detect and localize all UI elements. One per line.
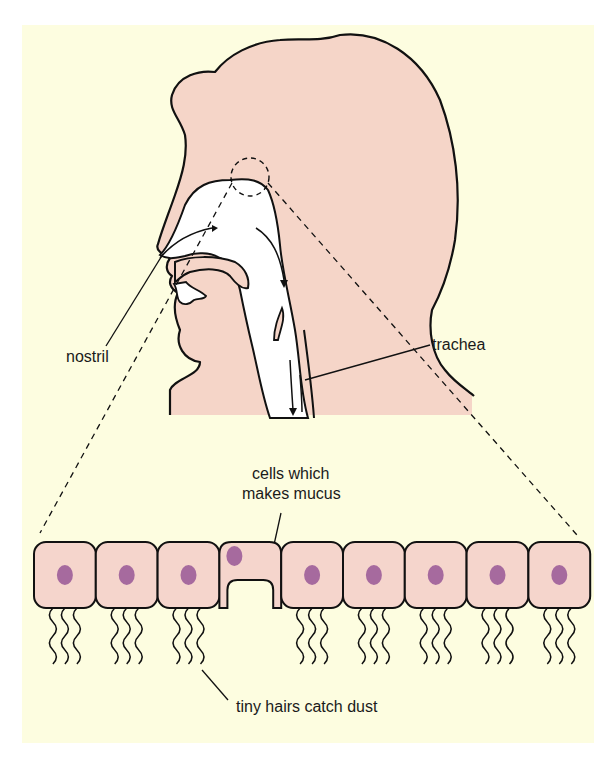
label-nostril: nostril [66, 348, 109, 365]
nucleus [57, 565, 73, 585]
label-mucus-line1: cells which [252, 465, 329, 482]
nucleus [181, 565, 197, 585]
nucleus [304, 565, 320, 585]
lining-cell [281, 542, 343, 608]
lining-cell [34, 542, 96, 608]
diagram-canvas: nostril trachea cells which makes mucus … [0, 0, 616, 773]
lining-cell [405, 542, 467, 608]
nucleus [428, 565, 444, 585]
head-illustration [157, 34, 474, 418]
nucleus [119, 565, 135, 585]
nucleus [490, 565, 506, 585]
lining-cell [343, 542, 405, 608]
lining-cell [528, 542, 590, 608]
label-hairs: tiny hairs catch dust [236, 698, 378, 715]
label-mucus-line2: makes mucus [242, 485, 341, 502]
lining-cell [96, 542, 158, 608]
nucleus [551, 565, 567, 585]
lining-cell [158, 542, 220, 608]
nucleus [366, 565, 382, 585]
label-trachea: trachea [432, 336, 485, 353]
nucleus [226, 546, 242, 566]
lining-cell [467, 542, 529, 608]
